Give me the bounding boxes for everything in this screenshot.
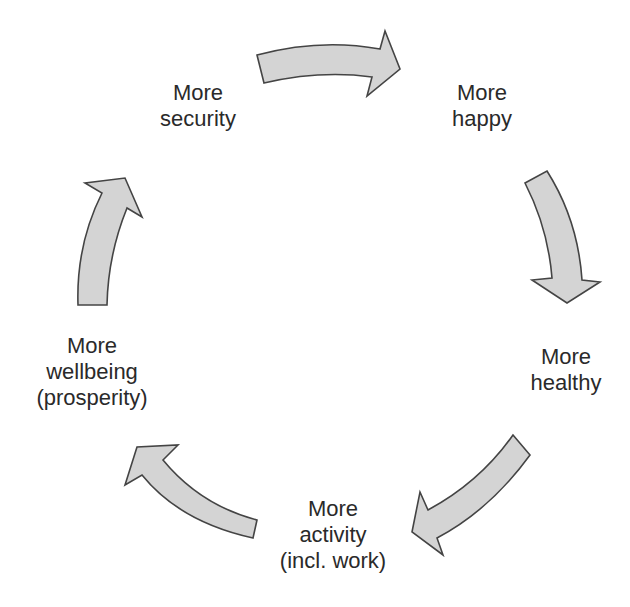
node-security-line-2: security: [160, 106, 236, 132]
node-activity-line-2: activity: [280, 522, 386, 548]
arrow-happy-to-healthy: [525, 171, 600, 303]
arrow-security-to-happy: [257, 31, 400, 96]
node-activity-line-1: More: [280, 496, 386, 522]
node-happy-line-2: happy: [452, 106, 512, 132]
node-healthy-line-1: More: [531, 344, 602, 370]
arrow-activity-to-wellbeing: [125, 445, 257, 538]
node-security-line-1: More: [160, 80, 236, 106]
node-security: More security: [160, 80, 236, 132]
node-wellbeing-line-1: More: [36, 333, 147, 359]
node-happy: More happy: [452, 80, 512, 132]
arrow-wellbeing-to-security: [78, 178, 142, 305]
node-wellbeing-line-3: (prosperity): [36, 385, 147, 411]
node-wellbeing: More wellbeing (prosperity): [36, 333, 147, 411]
node-healthy-line-2: healthy: [531, 370, 602, 396]
node-healthy: More healthy: [531, 344, 602, 396]
node-activity: More activity (incl. work): [280, 496, 386, 574]
node-activity-line-3: (incl. work): [280, 548, 386, 574]
node-happy-line-1: More: [452, 80, 512, 106]
node-wellbeing-line-2: wellbeing: [36, 359, 147, 385]
arrow-healthy-to-activity: [412, 435, 530, 555]
